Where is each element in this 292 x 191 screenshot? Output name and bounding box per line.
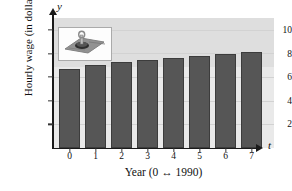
y-tick-8: [48, 53, 53, 54]
y-axis-title: Hourly wage (in dollars): [22, 0, 34, 122]
y-tick-10: [48, 29, 53, 30]
bar-year-4: [163, 58, 184, 148]
y-axis-line: [52, 13, 54, 149]
y-axis-arrow: [49, 8, 57, 15]
y-tick-label-2: 2: [246, 119, 292, 129]
bar-year-2: [111, 62, 132, 148]
chart-figure: 10 8 6 4 2 0 1 2 3 4 5 6 7 y t Hourly wa…: [0, 0, 292, 191]
y-tick-4: [48, 100, 53, 101]
x-tick-label-7: 7: [249, 151, 254, 161]
y-tick-label-8: 8: [246, 49, 292, 59]
x-tick-label-3: 3: [145, 151, 150, 161]
x-tick-label-1: 1: [93, 151, 98, 161]
y-tick-label-10: 10: [246, 25, 292, 35]
bar-year-1: [85, 65, 106, 148]
x-axis-title: Year (0 ↔ 1990): [53, 166, 274, 178]
y-tick-label-6: 6: [246, 72, 292, 82]
x-tick-label-0: 0: [67, 151, 72, 161]
y-tick-label-4: 4: [246, 96, 292, 106]
x-axis-arrow: [256, 144, 263, 152]
y-tick-6: [48, 76, 53, 77]
x-axis-variable-label: t: [268, 139, 271, 151]
bar-year-3: [137, 60, 158, 148]
x-tick-label-5: 5: [197, 151, 202, 161]
y-tick-2: [48, 124, 53, 125]
x-axis-line: [52, 148, 257, 150]
y-axis-variable-label: y: [57, 0, 62, 12]
plot-area: [53, 18, 274, 148]
bar-year-5: [189, 56, 210, 148]
mousetrap-icon: [59, 28, 109, 58]
bar-year-6: [215, 54, 236, 148]
bar-year-0: [59, 69, 80, 148]
x-tick-label-4: 4: [171, 151, 176, 161]
x-tick-label-2: 2: [119, 151, 124, 161]
mousetrap-inset-image: [58, 27, 112, 61]
x-tick-label-6: 6: [223, 151, 228, 161]
